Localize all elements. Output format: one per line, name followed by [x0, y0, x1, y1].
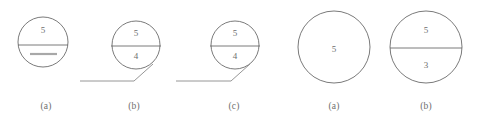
top-value-text: 5	[233, 28, 238, 38]
top-value-text: 5	[134, 28, 139, 38]
top-value-text: 5	[332, 44, 337, 54]
figure-fig-c-1: 54	[176, 21, 260, 81]
figure-fig-a-1: 5	[18, 17, 68, 67]
figure-group-left-group: 55454	[18, 17, 260, 81]
figure-caption: (b)	[128, 101, 140, 111]
top-value-text: 5	[424, 25, 429, 35]
top-value-text: 5	[41, 25, 46, 35]
figure-caption: (b)	[420, 101, 432, 111]
figure-fig-b-1: 54	[80, 21, 161, 81]
figure-caption: (a)	[40, 101, 51, 111]
figure-caption: (a)	[328, 101, 339, 111]
figure-group-right-group: 553	[298, 11, 462, 83]
figure-fig-b-2: 53	[390, 11, 462, 83]
figure-caption: (c)	[228, 101, 239, 111]
figure-fig-a-2: 5	[298, 11, 370, 83]
bottom-value-text: 4	[233, 51, 238, 61]
leader-line	[176, 64, 250, 81]
leader-line	[80, 64, 153, 81]
bottom-value-text: 3	[424, 60, 429, 70]
bottom-value-text: 4	[134, 51, 139, 61]
circle-outline	[390, 11, 462, 83]
figure-canvas: 55454553 (a)(b)(c)(a)(b)	[0, 0, 478, 123]
